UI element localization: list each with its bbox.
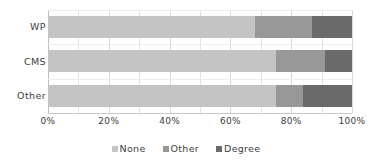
legend-label-degree: Degree (224, 143, 260, 154)
gridline-100 (352, 10, 353, 113)
legend-item-degree[interactable]: Degree (216, 143, 260, 154)
plot-area (48, 10, 352, 113)
bar-segment-wp-none (48, 16, 255, 38)
x-tick-label-0: 0% (41, 116, 56, 126)
legend-label-none: None (120, 143, 146, 154)
bar-segment-other-degree (303, 85, 352, 107)
category-label-cms: CMS (2, 56, 46, 67)
x-tick-label-40: 40% (159, 116, 180, 126)
horizontal-gridline-2 (48, 79, 352, 80)
x-tick-label-60: 60% (220, 116, 241, 126)
bar-segment-cms-none (48, 50, 276, 72)
x-axis-tick-labels: 0%20%40%60%80%100% (48, 116, 352, 130)
x-tick-label-80: 80% (281, 116, 302, 126)
category-label-other: Other (2, 90, 46, 101)
x-tick-label-20: 20% (98, 116, 119, 126)
stacked-bar-chart: WPCMSOther 0%20%40%60%80%100% NoneOtherD… (0, 0, 372, 167)
bar-row-other (48, 85, 352, 107)
x-tick-label-100: 100% (339, 116, 366, 126)
legend-swatch-icon-other (163, 146, 169, 152)
bar-segment-cms-other (276, 50, 325, 72)
horizontal-gridline-0 (48, 10, 352, 11)
legend: NoneOtherDegree (0, 143, 372, 154)
bar-segment-wp-degree (312, 16, 352, 38)
legend-swatch-icon-none (112, 146, 118, 152)
bar-segment-other-other (276, 85, 303, 107)
bar-row-wp (48, 16, 352, 38)
bar-segment-other-none (48, 85, 276, 107)
bar-segment-wp-other (255, 16, 313, 38)
bar-segment-cms-degree (325, 50, 352, 72)
legend-item-none[interactable]: None (112, 143, 146, 154)
x-axis-line (48, 113, 352, 114)
legend-swatch-icon-degree (216, 146, 222, 152)
legend-label-other: Other (171, 143, 199, 154)
category-label-wp: WP (2, 21, 46, 32)
bar-row-cms (48, 50, 352, 72)
horizontal-gridline-1 (48, 44, 352, 45)
legend-item-other[interactable]: Other (163, 143, 199, 154)
